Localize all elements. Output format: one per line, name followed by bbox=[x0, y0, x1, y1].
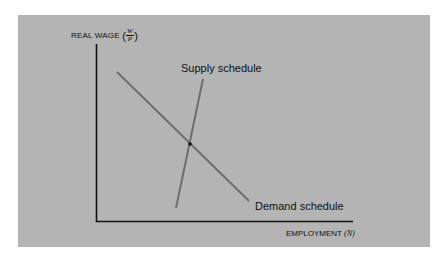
demand-curve bbox=[117, 72, 249, 201]
supply-curve-label: Supply schedule bbox=[181, 62, 262, 74]
y-axis-label-text: REAL WAGE bbox=[71, 31, 120, 40]
equilibrium-point bbox=[188, 142, 192, 146]
demand-curve-label: Demand schedule bbox=[255, 200, 344, 212]
y-axis-label: REAL WAGE (WP) bbox=[71, 28, 138, 43]
diagram-canvas bbox=[0, 0, 447, 259]
wage-fraction: WP bbox=[126, 28, 134, 43]
x-axis-variable: (N) bbox=[344, 229, 355, 238]
x-axis-label: EMPLOYMENT (N) bbox=[286, 229, 355, 238]
close-paren: ) bbox=[134, 30, 138, 42]
x-axis-label-text: EMPLOYMENT bbox=[286, 229, 342, 238]
fraction-denominator: P bbox=[126, 36, 134, 43]
